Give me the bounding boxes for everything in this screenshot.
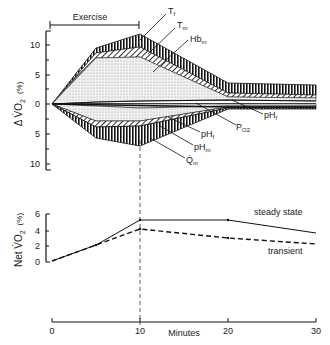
label-pHf-lower: pHf: [201, 129, 215, 140]
exercise-bracket: Exercise: [50, 12, 139, 29]
svg-text:Δ V̇O2(%): Δ V̇O2(%): [12, 81, 26, 126]
lower-ytick: 2: [35, 241, 40, 251]
lower-ytick: 4: [35, 226, 40, 236]
label-Tm: Tm: [177, 20, 188, 31]
label-pHm: pHm: [194, 142, 211, 153]
upper-ytick: 10: [30, 40, 40, 50]
label-PO2: PO2: [236, 122, 251, 133]
xtick: 30: [311, 326, 321, 336]
upper-ytick: 0: [35, 99, 40, 109]
lower-plot: steady state transient: [52, 207, 316, 261]
label-Tf: Tf: [168, 6, 176, 17]
transient-line: [52, 229, 316, 261]
steady-state-label: steady state: [254, 207, 303, 217]
upper-ytick: 10: [30, 159, 40, 169]
upper-ytick: 5: [35, 129, 40, 139]
lower-y-axis: 6 4 2 0 Net V̇O2(%): [12, 209, 50, 267]
xtick: 10: [135, 326, 145, 336]
x-axis-label: Minutes: [168, 328, 200, 338]
x-axis: 0 10 20 30 Minutes: [49, 318, 321, 338]
exercise-label: Exercise: [73, 12, 108, 22]
svg-text:Net V̇O2(%): Net V̇O2(%): [12, 213, 26, 267]
lower-ytick: 0: [35, 257, 40, 267]
lower-ytick: 6: [35, 209, 40, 219]
figure: Exercise 10 5 0 5 10 Δ V̇O2(%): [0, 0, 330, 345]
xtick: 0: [49, 326, 54, 336]
upper-y-axis: 10 5 0 5 10 Δ V̇O2(%): [12, 31, 51, 170]
upper-y-label: Δ V̇O2(%): [12, 81, 26, 126]
label-Hbm: Hbm: [190, 34, 207, 45]
lower-y-label: Net V̇O2(%): [12, 213, 26, 267]
upper-ytick: 5: [35, 70, 40, 80]
label-Qm: Q̇m: [186, 155, 198, 166]
label-pHf-upper: pHf: [264, 110, 278, 121]
xtick: 20: [223, 326, 233, 336]
upper-plot: Tf Tm Hbm pHf PO2 pHf pHm Q̇m: [52, 6, 316, 166]
transient-label: transient: [268, 246, 303, 256]
